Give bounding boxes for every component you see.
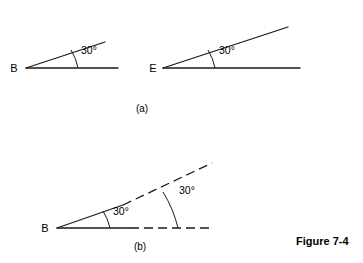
figure-page: B 30° E 30° (a) 30° 3 bbox=[0, 0, 363, 263]
angle-b-extended-outer-arc bbox=[163, 192, 178, 228]
geometry-figure: B 30° E 30° (a) 30° 3 bbox=[0, 0, 363, 263]
vertex-label-b-extended: B bbox=[41, 222, 48, 234]
part-label-b: (b) bbox=[134, 241, 146, 252]
angle-measure-b-inner: 30° bbox=[113, 205, 129, 217]
part-label-a: (a) bbox=[136, 103, 148, 114]
angle-measure-e-large: 30° bbox=[219, 44, 235, 56]
angle-b-extended-inner-arc bbox=[103, 211, 110, 228]
angle-measure-b-small: 30° bbox=[81, 44, 97, 56]
angle-measure-b-outer: 30° bbox=[179, 184, 195, 196]
angle-b-extended: 30° 30° B bbox=[41, 163, 212, 234]
vertex-label-b-small: B bbox=[10, 62, 17, 74]
angle-b-extended-inclined-dashed bbox=[123, 163, 212, 205]
figure-caption: Figure 7-4 bbox=[296, 235, 349, 247]
angle-b-small: B 30° bbox=[10, 42, 118, 74]
angle-e-large: E 30° bbox=[149, 27, 300, 74]
vertex-label-e-large: E bbox=[149, 62, 156, 74]
